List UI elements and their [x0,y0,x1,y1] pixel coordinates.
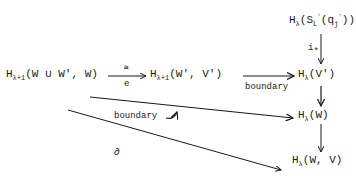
node-h: H [6,68,13,80]
node-arg2: (q [321,14,334,26]
node-sub: λ+1 [157,74,170,82]
node-h: H [298,68,305,80]
node-arg2-sub: j [334,20,338,28]
label-partial: ∂ [114,148,120,158]
node-h: H [289,14,296,26]
node-arg: (W', V') [169,68,222,80]
label-e: e [124,80,129,89]
node-arg: (W, V) [303,154,343,166]
node-arg: (W) [309,109,329,121]
node-arg-sub: L [313,20,317,28]
node-arg: (W ∪ W', W) [25,68,98,80]
node-h: H [150,68,157,80]
node-right-w: Hλ(W) [298,110,329,123]
node-arg: (S [300,14,313,26]
label-boundary-top: boundary [245,83,288,92]
node-sub: λ+1 [13,74,26,82]
node-arg: (V') [309,68,335,80]
label-boundary-diag: boundary [114,112,157,121]
arrow-partial [68,110,281,170]
node-h: H [292,154,299,166]
node-right-wv: Hλ(W, V) [292,155,342,168]
node-middle: Hλ+1(W', V') [150,69,222,82]
label-i-star: i* [308,44,319,57]
node-close: )) [342,14,355,26]
node-h: H [298,109,305,121]
node-right-vprime: Hλ(V') [298,69,335,82]
label-star: * [313,47,318,57]
node-top-right: Hλ(SL'(qj')) [289,14,355,28]
boundary-hook [166,112,177,118]
label-iso: ≅ [124,64,129,72]
node-left: Hλ+1(W ∪ W', W) [6,69,98,82]
